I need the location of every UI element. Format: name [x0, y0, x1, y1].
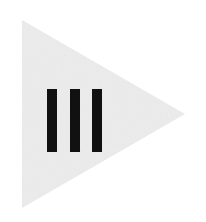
pause-bar-2	[70, 89, 80, 152]
pause-bars-group	[47, 89, 102, 152]
pause-bar-1	[47, 89, 57, 152]
media-icon[interactable]	[0, 0, 206, 222]
icon-canvas	[0, 0, 206, 222]
pause-bar-3	[92, 89, 102, 152]
